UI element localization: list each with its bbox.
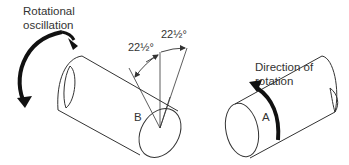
label-direction: Direction of bbox=[255, 61, 314, 73]
angle-label-right: 22½° bbox=[161, 28, 187, 40]
angle-arrow-left bbox=[146, 55, 158, 62]
label-shaft-b: B bbox=[134, 111, 142, 123]
oscillation-arrow-icon bbox=[17, 32, 78, 108]
diagram-canvas: Rotational oscillation B 22½° 22½° Direc… bbox=[0, 0, 349, 165]
label-oscillation: oscillation bbox=[23, 19, 74, 31]
rotation-arrow-icon bbox=[249, 80, 278, 140]
shaft-b bbox=[58, 56, 190, 165]
angle-label-left: 22½° bbox=[128, 41, 154, 53]
angle-arc-left bbox=[135, 55, 158, 77]
angle-arc-right bbox=[161, 48, 185, 52]
label-rotational: Rotational bbox=[23, 5, 75, 17]
label-shaft-a: A bbox=[262, 111, 270, 123]
